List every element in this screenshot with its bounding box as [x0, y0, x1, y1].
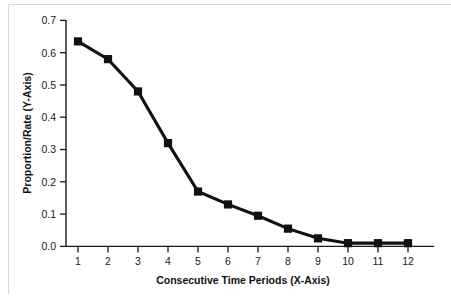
y-tick-label: 0.4 — [41, 111, 56, 123]
data-point — [104, 55, 112, 63]
x-axis-group: 1 2 3 4 5 6 7 8 9 10 11 12 Consecutive T… — [66, 246, 434, 286]
data-point — [344, 239, 352, 247]
data-point — [164, 139, 172, 147]
x-tick-label: 3 — [135, 255, 141, 267]
data-point — [374, 239, 382, 247]
data-point — [74, 37, 82, 45]
y-axis-ticks — [60, 20, 66, 246]
x-tick-labels: 1 2 3 4 5 6 7 8 9 10 11 12 — [75, 255, 414, 267]
x-tick-label: 10 — [342, 255, 354, 267]
y-axis-title: Proportion/Rate (Y-Axis) — [21, 72, 33, 193]
x-tick-label: 7 — [255, 255, 261, 267]
y-axis-group: 0.7 0.6 0.5 0.4 0.3 0.2 0.1 0.0 Proporti… — [21, 14, 66, 252]
x-tick-label: 2 — [105, 255, 111, 267]
x-tick-label: 8 — [285, 255, 291, 267]
x-tick-label: 6 — [225, 255, 231, 267]
y-tick-label: 0.3 — [41, 143, 56, 155]
data-point — [284, 225, 292, 233]
data-point — [224, 200, 232, 208]
y-tick-label: 0.0 — [41, 240, 56, 252]
x-tick-label: 9 — [315, 255, 321, 267]
data-point — [254, 212, 262, 220]
x-tick-label: 1 — [75, 255, 81, 267]
line-chart: 0.7 0.6 0.5 0.4 0.3 0.2 0.1 0.0 Proporti… — [0, 0, 451, 301]
x-tick-label: 5 — [195, 255, 201, 267]
x-tick-label: 11 — [373, 255, 384, 267]
x-tick-label: 4 — [165, 255, 171, 267]
series-markers — [74, 37, 412, 247]
series-line — [78, 41, 408, 243]
y-tick-label: 0.5 — [41, 79, 56, 91]
data-point — [134, 87, 142, 95]
y-tick-labels: 0.7 0.6 0.5 0.4 0.3 0.2 0.1 0.0 — [41, 14, 56, 252]
x-axis-ticks — [78, 246, 408, 252]
y-tick-label: 0.6 — [41, 47, 56, 59]
chart-figure: 0.7 0.6 0.5 0.4 0.3 0.2 0.1 0.0 Proporti… — [0, 0, 451, 301]
y-tick-label: 0.2 — [41, 176, 56, 188]
y-tick-label: 0.1 — [41, 208, 56, 220]
y-tick-label: 0.7 — [41, 14, 56, 26]
x-axis-title: Consecutive Time Periods (X-Axis) — [156, 274, 330, 286]
data-point — [314, 234, 322, 242]
x-tick-label: 12 — [402, 255, 414, 267]
data-point — [404, 239, 412, 247]
data-point — [194, 187, 202, 195]
series-group — [74, 37, 412, 247]
